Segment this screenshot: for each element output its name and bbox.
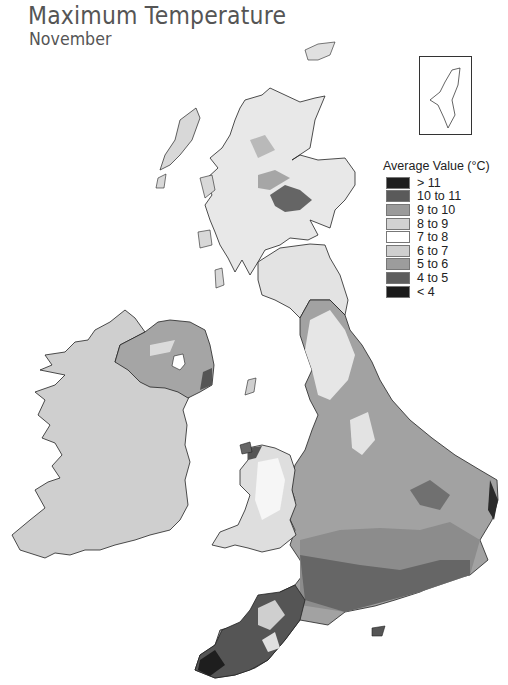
legend-item: 9 to 10	[386, 203, 490, 217]
legend-swatch	[386, 286, 410, 298]
legend-item: 4 to 5	[386, 271, 490, 285]
wales-region	[212, 445, 296, 552]
legend-item: 10 to 11	[386, 190, 490, 204]
legend-swatch	[386, 218, 410, 230]
legend-swatch	[386, 204, 410, 216]
legend-item: > 11	[386, 176, 490, 190]
isle-of-man	[245, 378, 256, 395]
legend: Average Value (°C) > 11 10 to 11 9 to 10…	[386, 159, 490, 298]
legend-item: 6 to 7	[386, 244, 490, 258]
legend-item: 5 to 6	[386, 258, 490, 272]
legend-item: < 4	[386, 285, 490, 299]
legend-swatch	[386, 272, 410, 284]
legend-swatch	[386, 245, 410, 257]
legend-title: Average Value (°C)	[383, 159, 490, 173]
legend-swatch	[386, 258, 410, 270]
outer-hebrides	[160, 108, 200, 170]
orkney	[305, 42, 335, 60]
legend-item: 7 to 8	[386, 230, 490, 244]
legend-swatch	[386, 177, 410, 189]
legend-swatch	[386, 231, 410, 243]
isle-of-wight	[372, 626, 385, 636]
shetland-inset-box	[419, 56, 472, 135]
legend-item: 8 to 9	[386, 217, 490, 231]
anglesey	[240, 442, 252, 454]
legend-swatch	[386, 190, 410, 202]
